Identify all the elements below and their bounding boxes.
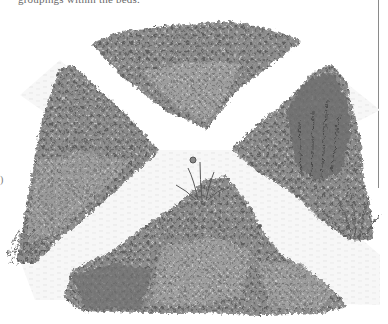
garden-illustration (0, 0, 388, 324)
